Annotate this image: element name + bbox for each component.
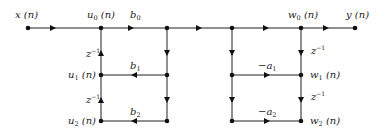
node-u1 (99, 73, 104, 78)
b1-gain-label: b1 (130, 60, 141, 73)
node-b-mid (230, 73, 235, 78)
a2-gain-label: −a2 (258, 106, 276, 119)
node-y (353, 26, 358, 31)
arrow-down-icon (229, 50, 235, 56)
labels: x (n) y (n) u0 (n) u1 (n) u2 (n) w0 (n) … (15, 9, 369, 128)
w2-label: w2 (n) (310, 115, 340, 128)
u1-label: u1 (n) (68, 69, 96, 82)
arrow-down-icon (229, 97, 235, 103)
node-w0 (299, 26, 304, 31)
u2-label: u2 (n) (68, 115, 96, 128)
node-b-bot (230, 119, 235, 124)
w0-label: w0 (n) (288, 9, 318, 22)
node-w1 (299, 73, 304, 78)
node-u0 (99, 26, 104, 31)
u0-label: u0 (n) (87, 9, 115, 22)
arrow-down-icon (164, 50, 170, 56)
arrow-right-icon (323, 25, 329, 31)
arrow-down-icon (298, 97, 304, 103)
node-a-bot (165, 119, 170, 124)
arrow-right-icon (196, 25, 202, 31)
delay-label-u1: z−1 (85, 47, 100, 59)
node-u2 (99, 119, 104, 124)
arrow-right-icon (50, 25, 56, 31)
node-a-top (165, 26, 170, 31)
signal-flow-diagram: x (n) y (n) u0 (n) u1 (n) u2 (n) w0 (n) … (0, 0, 379, 138)
node-w2 (299, 119, 304, 124)
arrow-down-icon (298, 50, 304, 56)
a1-gain-label: −a1 (258, 60, 276, 73)
delay-label-u2: z−1 (85, 93, 100, 105)
node-a-mid (165, 73, 170, 78)
arrow-right-icon (264, 118, 270, 124)
delay-label-w2: z−1 (310, 90, 325, 102)
w1-label: w1 (n) (310, 69, 340, 82)
arrow-right-icon (264, 72, 270, 78)
arrow-right-icon (263, 25, 269, 31)
b2-gain-label: b2 (130, 106, 141, 119)
node-b-top (230, 26, 235, 31)
node-x (26, 26, 31, 31)
delay-label-w1: z−1 (310, 44, 325, 56)
b0-gain-label: b0 (130, 9, 141, 22)
input-label: x (n) (15, 9, 38, 20)
arrow-down-icon (164, 97, 170, 103)
arrow-right-icon (128, 25, 134, 31)
output-label: y (n) (345, 9, 369, 20)
